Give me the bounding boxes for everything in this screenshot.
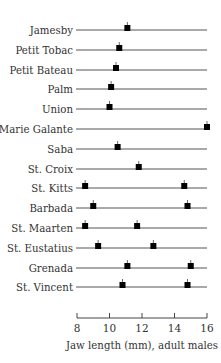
data-point-marker	[124, 263, 130, 269]
row-label: Barbada	[29, 203, 73, 214]
x-tick-label: 8	[74, 322, 81, 334]
x-tick-label: 14	[168, 322, 182, 334]
row-label: Palm	[48, 84, 74, 95]
chart-rows: JamesbyPetit TobacPetit BateauPalmUnionM…	[0, 22, 210, 293]
data-point-marker	[108, 84, 114, 90]
row: Marie Galante	[0, 121, 210, 135]
data-point-marker	[181, 183, 187, 189]
row-label: St. Croix	[28, 164, 74, 175]
row-label: Union	[42, 104, 74, 115]
data-point-marker	[134, 223, 140, 229]
x-axis: 810121416	[74, 313, 214, 334]
row: Palm	[48, 81, 207, 95]
row: Saba	[47, 141, 207, 155]
data-point-marker	[82, 183, 88, 189]
row: St. Maarten	[11, 220, 207, 234]
row: Barbada	[29, 200, 207, 214]
row: St. Kitts	[31, 180, 207, 194]
row-label: Saba	[47, 144, 73, 155]
data-point-marker	[188, 263, 194, 269]
row-label: Jamesby	[29, 25, 74, 36]
row: Jamesby	[29, 22, 207, 36]
row: Petit Bateau	[10, 62, 207, 76]
row: St. Vincent	[16, 279, 207, 293]
x-tick-label: 12	[135, 322, 148, 334]
row: St. Eustatius	[7, 240, 207, 254]
jaw-length-strip-chart: JamesbyPetit TobacPetit BateauPalmUnionM…	[0, 0, 221, 363]
data-point-marker	[204, 124, 210, 130]
x-tick-label: 16	[200, 322, 214, 334]
row: Union	[42, 101, 207, 115]
row-label: St. Kitts	[31, 183, 73, 194]
data-point-marker	[150, 243, 156, 249]
data-point-marker	[82, 223, 88, 229]
row: St. Croix	[28, 161, 207, 175]
data-point-marker	[95, 243, 101, 249]
row-label: St. Eustatius	[7, 243, 73, 254]
data-point-marker	[124, 25, 130, 31]
data-point-marker	[120, 282, 126, 288]
row-label: St. Maarten	[11, 223, 73, 234]
x-axis-title: Jaw length (mm), adult males	[65, 340, 218, 351]
row-label: Petit Tobac	[15, 45, 73, 56]
data-point-marker	[185, 282, 191, 288]
row-label: St. Vincent	[16, 282, 74, 293]
row-label: Grenada	[29, 263, 73, 274]
data-point-marker	[185, 203, 191, 209]
data-point-marker	[116, 45, 122, 51]
data-point-marker	[113, 65, 119, 71]
data-point-marker	[90, 203, 96, 209]
data-point-marker	[115, 144, 121, 150]
data-point-marker	[136, 164, 142, 170]
row-label: Petit Bateau	[10, 65, 74, 76]
data-point-marker	[107, 104, 113, 110]
row: Grenada	[29, 260, 207, 274]
row: Petit Tobac	[15, 42, 207, 56]
row-label: Marie Galante	[0, 124, 73, 135]
x-tick-label: 10	[103, 322, 116, 334]
